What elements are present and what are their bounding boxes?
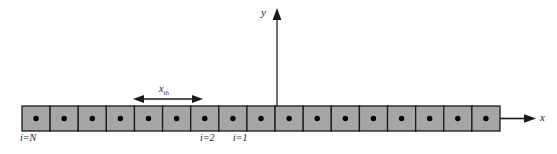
node-dot <box>258 116 263 121</box>
y-axis-label: y <box>261 7 266 18</box>
node-dot <box>315 116 320 121</box>
x-axis-label: x <box>540 112 545 123</box>
index-label-n: i=N <box>20 133 36 143</box>
cell-thickness-label: xth <box>159 84 169 97</box>
node-dot <box>483 116 488 121</box>
dimension-arrowhead-left <box>133 95 144 103</box>
cell <box>22 106 50 131</box>
cell <box>219 106 247 131</box>
dimension-arrowhead-right <box>192 95 203 103</box>
node-dot <box>118 116 123 121</box>
index-label-1: i=1 <box>233 133 248 143</box>
cell <box>472 106 500 131</box>
diagram-graphics <box>0 0 557 154</box>
node-dot <box>455 116 460 121</box>
cell-thickness-subscript: th <box>163 89 168 97</box>
cell <box>247 106 275 131</box>
cell <box>78 106 106 131</box>
cell <box>388 106 416 131</box>
node-dot <box>343 116 348 121</box>
cell <box>191 106 219 131</box>
node-dot <box>286 116 291 121</box>
cell <box>50 106 78 131</box>
node-dot <box>427 116 432 121</box>
node-dot <box>61 116 66 121</box>
cell <box>416 106 444 131</box>
node-dot <box>174 116 179 121</box>
y-axis-arrowhead <box>273 8 282 20</box>
node-dot <box>33 116 38 121</box>
node-dot <box>90 116 95 121</box>
cell-strip <box>22 106 500 131</box>
cell <box>359 106 387 131</box>
node-dot <box>146 116 151 121</box>
cell <box>275 106 303 131</box>
node-dot <box>202 116 207 121</box>
cell <box>134 106 162 131</box>
figure-canvas: y x xth i=N i=2 i=1 <box>0 0 557 154</box>
node-dot <box>230 116 235 121</box>
x-axis-arrowhead <box>524 114 536 123</box>
cell <box>444 106 472 131</box>
cell <box>106 106 134 131</box>
cell <box>303 106 331 131</box>
node-dot <box>399 116 404 121</box>
index-label-2: i=2 <box>200 133 215 143</box>
cell <box>163 106 191 131</box>
node-dot <box>371 116 376 121</box>
cell <box>331 106 359 131</box>
